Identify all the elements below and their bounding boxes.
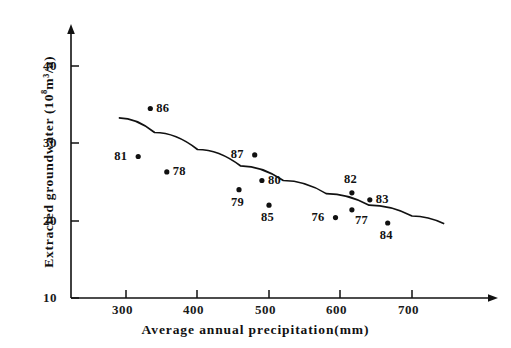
data-point-87 — [252, 152, 257, 157]
y-axis-title: Extracted groundwater (108m³/a) — [39, 17, 57, 307]
data-point-label-84: 84 — [380, 228, 393, 243]
data-point-label-87: 87 — [231, 147, 244, 162]
data-point-label-80: 80 — [268, 173, 281, 188]
y-tick-marks — [71, 66, 79, 298]
data-point-76 — [333, 215, 338, 220]
x-tick-label-500: 500 — [255, 302, 276, 318]
x-tick-label-300: 300 — [112, 302, 133, 318]
data-point-label-86: 86 — [156, 101, 169, 116]
data-point-label-83: 83 — [376, 192, 389, 207]
data-point-label-78: 78 — [173, 164, 186, 179]
y-axis-arrow — [67, 24, 75, 34]
data-point-label-77: 77 — [355, 213, 368, 228]
data-point-label-79: 79 — [231, 195, 244, 210]
data-point-81 — [136, 154, 141, 159]
data-point-79 — [236, 187, 241, 192]
data-point-77 — [349, 207, 354, 212]
x-axis-title: Average annual precipitation(mm) — [0, 322, 511, 338]
x-tick-label-600: 600 — [326, 302, 347, 318]
data-point-label-82: 82 — [344, 172, 357, 187]
data-point-label-85: 85 — [261, 210, 274, 225]
y-axis-title-exponent: 8 — [39, 90, 49, 94]
y-axis-title-prefix: Extracted groundwater (10 — [41, 94, 56, 268]
x-tick-label-400: 400 — [183, 302, 204, 318]
data-point-80 — [259, 178, 264, 183]
x-tick-marks — [126, 290, 412, 298]
x-axis-arrow — [488, 294, 498, 302]
data-point-label-81: 81 — [114, 149, 127, 164]
data-point-label-76: 76 — [312, 210, 325, 225]
data-point-86 — [148, 106, 153, 111]
plot-canvas — [0, 0, 511, 348]
y-axis-title-suffix: m³/a) — [41, 56, 56, 90]
axes-group — [67, 24, 498, 302]
data-point-85 — [266, 203, 271, 208]
chart-figure: 40 30 20 10 300 400 500 600 700 Average … — [0, 0, 511, 348]
data-point-84 — [385, 220, 390, 225]
data-point-83 — [367, 197, 372, 202]
data-point-82 — [349, 190, 354, 195]
x-tick-label-700: 700 — [398, 302, 419, 318]
data-point-78 — [164, 169, 169, 174]
